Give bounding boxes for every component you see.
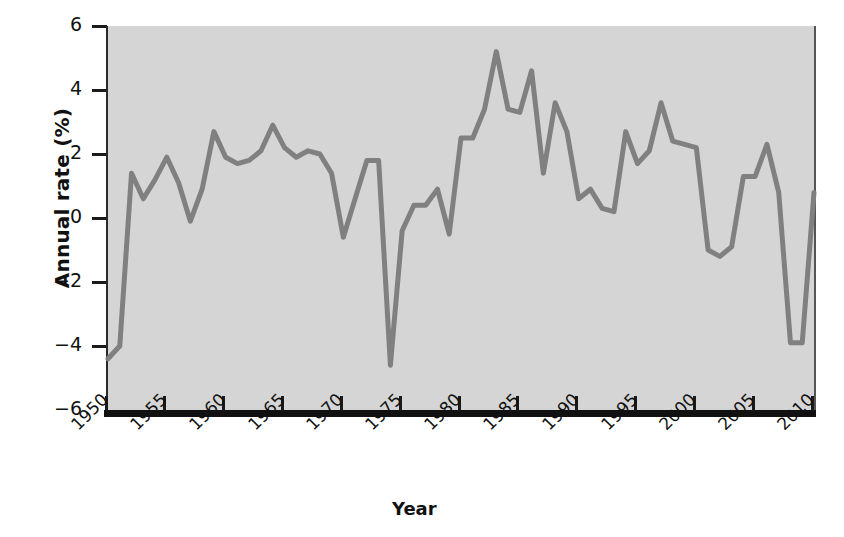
y-tick-mark: [92, 217, 107, 220]
line-series: [108, 26, 814, 410]
y-tick-mark: [92, 89, 107, 92]
x-axis-title: Year: [392, 498, 437, 519]
y-axis-title: Annual rate (%): [50, 58, 74, 338]
y-tick-mark: [92, 345, 107, 348]
y-tick-label: 0: [38, 205, 82, 227]
plot-area: [106, 26, 816, 410]
y-tick-mark: [92, 153, 107, 156]
y-tick-mark: [92, 25, 107, 28]
y-tick-label: −2: [38, 269, 82, 291]
y-tick-label: 4: [38, 77, 82, 99]
y-tick-mark: [92, 281, 107, 284]
y-tick-label: 2: [38, 141, 82, 163]
y-tick-label: −4: [38, 333, 82, 355]
chart-figure: Annual rate (%) 6420−2−4−6 1950195519601…: [0, 0, 844, 537]
annual-rate-line: [108, 52, 814, 366]
y-tick-label: 6: [38, 13, 82, 35]
